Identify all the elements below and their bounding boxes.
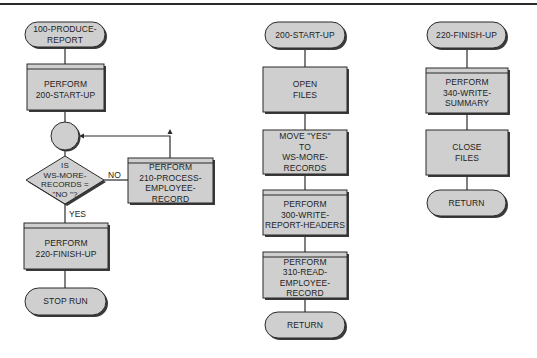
- label-return-start-up: RETURN: [265, 312, 345, 338]
- text: RECORD: [152, 194, 189, 205]
- label-perform-200: PERFORM 200-START-UP: [27, 69, 104, 110]
- text: FILES: [455, 153, 479, 164]
- label-perform-340: PERFORM 340-WRITE- SUMMARY: [426, 73, 508, 113]
- text: SUMMARY: [445, 98, 489, 109]
- label-perform-310: PERFORM 310-READ- EMPLOYEE- RECORD: [263, 257, 347, 298]
- text: FILES: [293, 90, 317, 101]
- text: "NO "?: [53, 190, 78, 200]
- label-100-produce-report: 100-PRODUCE- REPORT: [25, 22, 105, 47]
- text: RETURN: [448, 198, 484, 209]
- text: 340-WRITE-: [443, 88, 491, 99]
- text: REPORT: [47, 35, 83, 46]
- text: RECORD: [286, 288, 323, 299]
- text: 220-FINISH-UP: [36, 249, 97, 260]
- label-decision: IS WS-MORE- RECORDS = "NO "?: [26, 158, 104, 202]
- label-close-files: CLOSE FILES: [426, 130, 508, 175]
- text: CLOSE: [452, 142, 481, 153]
- text: 310-READ-: [283, 267, 327, 278]
- text: EMPLOYEE-: [280, 278, 331, 289]
- text: TO: [299, 142, 311, 153]
- label-perform-220: PERFORM 220-FINISH-UP: [24, 228, 108, 269]
- text: IS: [61, 161, 69, 171]
- text: RECORDS =: [41, 180, 89, 190]
- no-label: NO: [108, 170, 121, 180]
- text: PERFORM: [445, 77, 488, 88]
- label-perform-210: PERFORM 210-PROCESS- EMPLOYEE- RECORD: [128, 163, 213, 203]
- text: RECORDS: [283, 163, 326, 174]
- text: WS-MORE-: [282, 152, 328, 163]
- text: 200-START-UP: [36, 90, 95, 101]
- text: PERFORM: [44, 238, 87, 249]
- connector-circle: [51, 122, 81, 152]
- text: 210-PROCESS-: [139, 173, 202, 184]
- text: OPEN: [293, 79, 318, 90]
- text: PERFORM: [149, 162, 192, 173]
- text: PERFORM: [44, 79, 87, 90]
- text: PERFORM: [283, 257, 326, 268]
- text: RETURN: [287, 320, 323, 331]
- text: MOVE "YES": [279, 131, 330, 142]
- label-open-files: OPEN FILES: [263, 67, 347, 112]
- text: 200-START-UP: [275, 30, 334, 41]
- label-stop-run: STOP RUN: [25, 288, 106, 315]
- label-220-finish-up: 220-FINISH-UP: [427, 22, 506, 48]
- text: PERFORM: [283, 199, 326, 210]
- yes-label: YES: [69, 209, 86, 219]
- text: 220-FINISH-UP: [436, 30, 497, 41]
- text: 300-WRITE-: [281, 210, 329, 221]
- text: WS-MORE-: [43, 171, 86, 181]
- label-200-start-up: 200-START-UP: [265, 22, 345, 48]
- text: STOP RUN: [43, 296, 87, 307]
- text: EMPLOYEE-: [145, 183, 196, 194]
- text: REPORT-HEADERS: [265, 220, 345, 231]
- label-return-finish-up: RETURN: [427, 190, 506, 216]
- label-move-yes: MOVE "YES" TO WS-MORE- RECORDS: [263, 130, 347, 174]
- text: 100-PRODUCE-: [33, 24, 97, 35]
- label-perform-300: PERFORM 300-WRITE- REPORT-HEADERS: [263, 195, 347, 235]
